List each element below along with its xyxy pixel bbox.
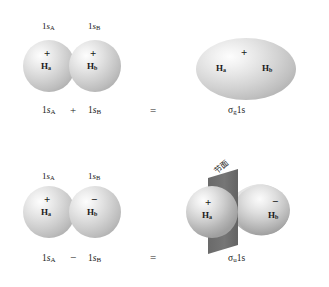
equation-right-sub-bonding: B: [96, 108, 101, 116]
orbital-label-1sB-top: 1sB: [88, 22, 100, 32]
equation-left-sub-bonding: A: [50, 108, 55, 116]
atom-label-Ha-text: H: [41, 61, 48, 71]
orbital-sub-B-top: B: [96, 24, 100, 31]
lobe-atom-label-Hb: Hb: [268, 211, 278, 220]
equation-right-term-bonding: 1sB: [88, 106, 101, 116]
orbital-sub-B-bottom: B: [96, 174, 100, 181]
atom-label-Hb-bonding: Hb: [87, 62, 97, 71]
sigma-orbital-u: 1s: [237, 253, 245, 263]
equation-left-term-bonding: 1sA: [42, 106, 56, 116]
sigma-orbital-g: 1s: [237, 105, 245, 115]
atom-label-Hb-text-anti: H: [87, 207, 94, 217]
lobe-sign-positive: +: [205, 197, 211, 208]
orbital-sub-A-bottom: A: [50, 174, 55, 181]
atom-label-Hb-antibonding: Hb: [87, 208, 97, 217]
atom-label-Ha-text-anti: H: [41, 207, 48, 217]
orbital-label-1sB-bottom: 1sB: [88, 172, 100, 182]
sphere-sign-B-antibonding: −: [91, 194, 97, 205]
equation-right-term-antibonding: 1sB: [88, 254, 101, 264]
equals-sign-antibonding: =: [150, 252, 156, 263]
ellipse-atom-Ha-sub: a: [223, 67, 226, 73]
atom-sub-a-anti: a: [48, 211, 51, 217]
equals-sign-bonding: =: [150, 105, 156, 116]
ellipse-sign-plus: +: [241, 47, 247, 58]
sphere-sign-A-antibonding: +: [44, 194, 50, 205]
atom-sub-a: a: [48, 65, 51, 71]
orbital-label-1sA-bottom: 1sA: [42, 172, 55, 182]
atom-label-Ha-bonding: Ha: [41, 62, 51, 71]
result-label-sigma-u-1s: σu1s: [228, 254, 245, 264]
lobe-atom-Hb-sub: b: [275, 214, 278, 220]
result-label-sigma-g-1s: σg1s: [228, 106, 245, 116]
orbital-label-1sA-top: 1sA: [42, 22, 55, 32]
ellipse-atom-label-Hb: Hb: [262, 64, 272, 73]
lobe-atom-Hb-text: H: [268, 210, 275, 220]
lobe-atom-label-Ha: Ha: [202, 211, 212, 220]
sphere-sign-B-bonding: +: [90, 48, 96, 59]
equation-left-sub-antibonding: A: [50, 256, 55, 264]
atom-label-Ha-antibonding: Ha: [41, 208, 51, 217]
sigma-u-product-graphic: [186, 160, 314, 256]
ellipse-atom-Hb-text: H: [262, 63, 269, 73]
lobe-sign-negative: −: [272, 196, 278, 207]
lobe-atom-Ha-sub: a: [209, 214, 212, 220]
atom-sub-b: b: [94, 65, 97, 71]
molecular-orbital-figure: 1sA 1sB + Ha + Hb + Ha Hb 1sA + 1sB = σg…: [0, 0, 329, 287]
equation-left-term-antibonding: 1sA: [42, 254, 56, 264]
equation-operator-plus: +: [70, 105, 76, 116]
ellipse-atom-label-Ha: Ha: [216, 64, 226, 73]
lobe-atom-Ha-text: H: [202, 210, 209, 220]
ellipse-atom-Hb-sub: b: [269, 67, 272, 73]
equation-right-sub-antibonding: B: [96, 256, 101, 264]
atom-label-Hb-text: H: [87, 61, 94, 71]
equation-operator-minus: −: [70, 252, 76, 263]
sphere-sign-A-bonding: +: [44, 48, 50, 59]
atom-sub-b-anti: b: [94, 211, 97, 217]
ellipse-atom-Ha-text: H: [216, 63, 223, 73]
orbital-sub-A-top: A: [50, 24, 55, 31]
